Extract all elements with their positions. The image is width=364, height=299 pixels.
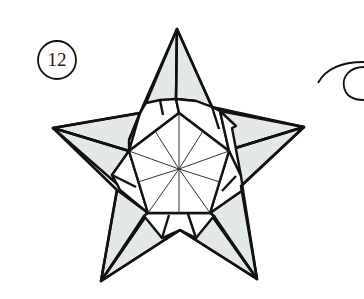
step-number: 12 [37,40,77,80]
turn-over-arrow-icon [318,62,364,100]
star-point-top [146,29,212,107]
